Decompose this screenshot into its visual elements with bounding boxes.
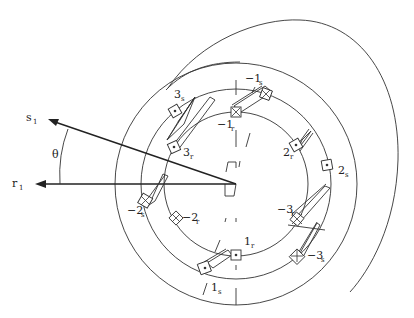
svg-text:1: 1 [211, 281, 218, 294]
svg-text:1: 1 [244, 235, 251, 248]
svg-text:r: r [231, 125, 235, 133]
stator-conductor-3s: 3 s [168, 88, 185, 118]
svg-text:r: r [196, 218, 200, 226]
stator-conductor-neg3s: −3 s [289, 249, 325, 265]
center-marker [225, 161, 240, 196]
svg-text:s: s [259, 79, 263, 87]
theta-label: θ [52, 148, 59, 161]
svg-text:1: 1 [19, 184, 23, 192]
induction-machine-diagram: r 1 s 1 θ [0, 0, 414, 318]
svg-text:3: 3 [174, 88, 181, 101]
svg-text:1: 1 [33, 118, 37, 126]
rotor-conductor-1r: 1 r [231, 235, 255, 260]
s1-label: s [26, 111, 32, 124]
svg-text:s: s [321, 256, 325, 264]
svg-text:r: r [190, 153, 194, 161]
r1-label: r [12, 177, 18, 190]
svg-text:2: 2 [338, 164, 345, 177]
stator-conductor-1s: 1 s [197, 261, 222, 296]
svg-text:r: r [251, 242, 255, 250]
stator-conductor-2s: 2 s [321, 159, 349, 179]
svg-text:s: s [181, 95, 185, 103]
svg-text:2: 2 [283, 146, 290, 159]
rotor-conductor-neg1r: −1 r [217, 107, 241, 133]
svg-text:s: s [345, 171, 349, 179]
rotor-conductor-2r: 2 r [283, 138, 303, 161]
svg-text:s: s [218, 288, 222, 296]
svg-text:s: s [141, 211, 145, 219]
rotor-axis-r1: r 1 [12, 177, 236, 192]
svg-text:r: r [290, 153, 294, 161]
rotor-conductor-3r: 3 r [167, 140, 194, 161]
theta-arc [60, 129, 68, 184]
rotor-conductor-neg2r: −2 r [169, 211, 200, 226]
svg-text:3: 3 [183, 146, 190, 159]
stator-conductor-neg2s: −2 s [127, 193, 153, 219]
